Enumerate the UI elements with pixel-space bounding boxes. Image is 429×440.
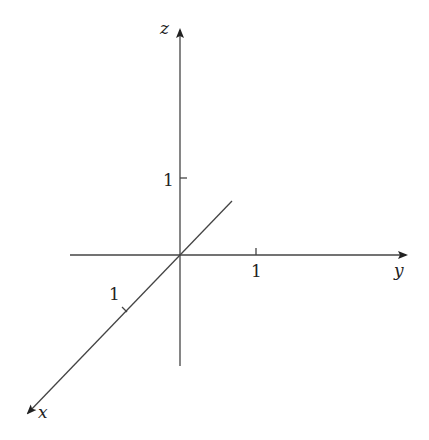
z-axis-label: z [159, 18, 170, 38]
z-tick-label: 1 [163, 170, 174, 190]
y-tick-label: 1 [251, 261, 262, 281]
x-axis-label: x [38, 402, 48, 422]
x-tick-label: 1 [109, 284, 120, 304]
axes-diagram: z y x 1 1 1 [0, 0, 429, 440]
y-axis-label: y [393, 260, 404, 280]
x-axis [28, 201, 232, 413]
x-tick [122, 307, 127, 312]
